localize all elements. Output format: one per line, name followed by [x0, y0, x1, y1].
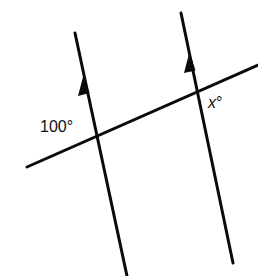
angle-variable-x: x	[208, 94, 216, 111]
right-parallel-arrow-icon	[184, 52, 196, 73]
angle-label-100: 100°	[40, 119, 73, 135]
angle-label-x: x°	[208, 95, 222, 111]
right-parallel-line	[181, 13, 233, 263]
left-parallel-arrow-icon	[78, 75, 90, 96]
diagram-canvas	[0, 0, 258, 276]
parallel-lines-diagram: 100° x°	[0, 0, 258, 276]
degree-symbol: °	[216, 94, 222, 111]
transversal-line	[27, 65, 258, 167]
left-parallel-line	[75, 33, 127, 276]
